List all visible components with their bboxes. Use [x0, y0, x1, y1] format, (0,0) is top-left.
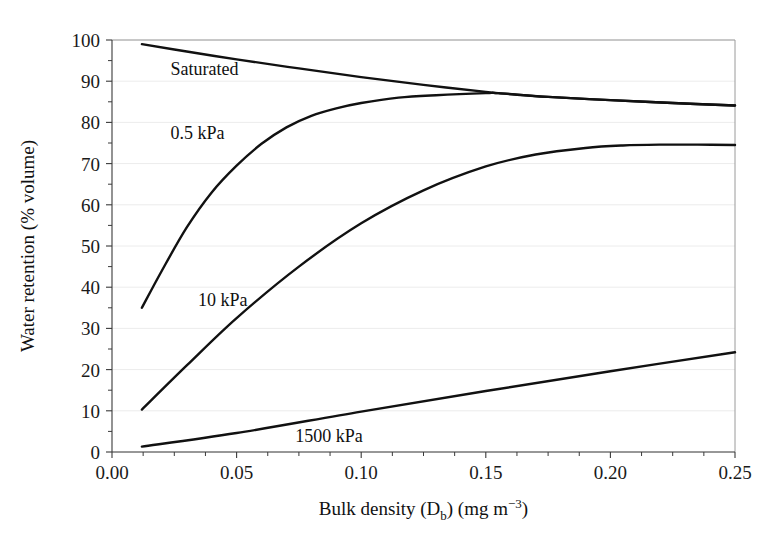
series-label: Saturated [171, 59, 239, 79]
y-tick-label: 20 [81, 360, 100, 381]
x-tick-label: 0.10 [345, 462, 378, 483]
x-tick-label: 0.25 [718, 462, 751, 483]
series-label: 1500 kPa [295, 426, 363, 446]
y-tick-label: 60 [81, 195, 100, 216]
y-tick-label: 50 [81, 236, 100, 257]
y-tick-label: 90 [81, 71, 100, 92]
y-tick-label: 80 [81, 112, 100, 133]
y-tick-label: 30 [81, 318, 100, 339]
y-tick-label: 10 [81, 401, 100, 422]
y-tick-label: 70 [81, 154, 100, 175]
series-label: 0.5 kPa [171, 123, 225, 143]
y-tick-label: 100 [72, 30, 101, 51]
y-tick-label: 0 [91, 442, 101, 463]
x-tick-label: 0.15 [469, 462, 502, 483]
x-axis-title: Bulk density (Db) (mg m−3) [319, 496, 528, 523]
water-retention-line-chart: 0.000.050.100.150.200.25 010203040506070… [0, 0, 782, 545]
x-tick-label: 0.05 [220, 462, 253, 483]
y-axis-title: Water retention (% volume) [17, 140, 39, 352]
x-tick-label: 0.00 [95, 462, 128, 483]
x-tick-label: 0.20 [594, 462, 627, 483]
chart-figure: 0.000.050.100.150.200.25 010203040506070… [0, 0, 782, 545]
y-tick-label: 40 [81, 277, 100, 298]
series-label: 10 kPa [198, 290, 248, 310]
